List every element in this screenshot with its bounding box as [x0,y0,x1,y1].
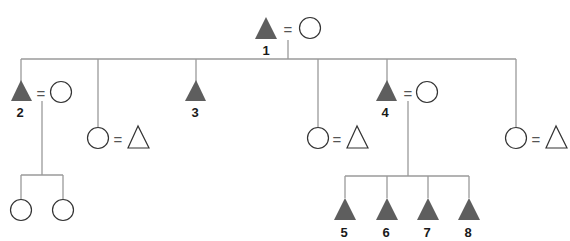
marriage-symbol: = [532,132,541,147]
circle-icon [88,128,109,149]
open-triangle-icon [347,126,368,148]
filled-triangle-icon [417,198,439,220]
filled-triangle-icon [11,80,32,101]
circle-icon [51,82,72,103]
marriage-symbol: = [284,22,293,37]
filled-triangle-icon [255,17,277,39]
circle-icon [300,18,321,39]
marriage-symbol: = [114,132,123,147]
circle-icon [417,82,438,103]
open-triangle-icon [128,126,149,148]
node-label-3: 3 [191,106,198,119]
node-label-8: 8 [464,226,471,239]
circle-icon [53,200,74,221]
filled-triangle-icon [185,80,206,101]
filled-triangle-icon [458,198,480,220]
node-label-5: 5 [340,226,347,239]
node-label-7: 7 [423,226,430,239]
marriage-symbol: = [333,132,342,147]
filled-triangle-icon [376,198,398,220]
filled-triangle-icon [376,80,397,101]
node-label-4: 4 [381,106,388,119]
circle-icon [506,128,527,149]
circle-icon [11,200,32,221]
kinship-diagram: = = = = = = 1 2 3 4 5 6 7 8 [0,0,570,241]
circle-icon [308,128,329,149]
marriage-symbol: = [37,86,46,101]
marriage-symbol: = [404,86,413,101]
node-label-6: 6 [382,226,389,239]
node-label-1: 1 [262,44,269,57]
descent-lines [21,40,516,199]
open-triangle-icon [546,126,567,148]
filled-triangle-icon [334,198,356,220]
node-label-2: 2 [16,106,23,119]
